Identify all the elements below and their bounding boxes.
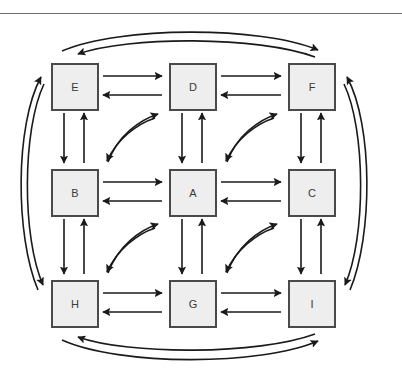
node-box-E[interactable]: E	[51, 63, 99, 111]
arc-I-to-F	[347, 77, 367, 290]
edge-B-to-D-curve	[108, 114, 158, 162]
node-box-H[interactable]: H	[51, 280, 99, 328]
node-label-I: I	[310, 299, 313, 310]
node-box-I[interactable]: I	[288, 280, 336, 328]
edge-H-to-A-curve	[108, 224, 158, 273]
arc-E-to-H	[27, 84, 44, 285]
arc-H-to-E	[21, 77, 41, 290]
node-box-A[interactable]: A	[169, 169, 217, 217]
node-box-F[interactable]: F	[288, 63, 336, 111]
node-label-B: B	[71, 188, 78, 199]
edge-A-to-F-curve	[227, 114, 277, 162]
edge-D-to-B-curve	[107, 118, 155, 161]
arc-I-to-H	[78, 334, 315, 350]
arc-F-to-E	[78, 41, 315, 57]
node-box-C[interactable]: C	[288, 169, 336, 217]
edge-A-to-H-curve	[107, 228, 155, 272]
figure-container: E D F B A C H G I	[0, 0, 402, 373]
node-label-E: E	[71, 82, 78, 93]
node-label-G: G	[189, 299, 198, 310]
node-label-A: A	[189, 188, 196, 199]
edge-F-to-A-curve	[226, 118, 274, 161]
arc-F-to-I	[344, 84, 361, 285]
edge-C-to-G-curve	[226, 228, 274, 272]
node-label-F: F	[309, 82, 316, 93]
edge-G-to-C-curve	[227, 224, 277, 273]
node-label-D: D	[189, 82, 197, 93]
node-label-H: H	[71, 299, 79, 310]
node-box-B[interactable]: B	[51, 169, 99, 217]
node-box-D[interactable]: D	[169, 63, 217, 111]
node-box-G[interactable]: G	[169, 280, 217, 328]
node-label-C: C	[308, 188, 316, 199]
